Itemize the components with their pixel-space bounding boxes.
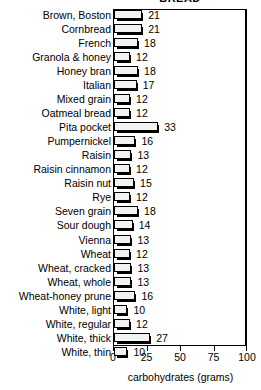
bar-container: 10 [114,305,127,317]
bar-container: 18 [114,206,138,218]
bar-row: Italian17 [0,79,261,93]
bar [114,235,131,244]
category-label: Sour dough [0,219,111,232]
category-label: Pumpernickel [0,135,111,148]
bar-row: White, thick27 [0,332,261,346]
category-label: Wheat, cracked [0,262,111,275]
category-label: Raisin cinnamon [0,163,111,176]
x-axis-tick-label: 75 [208,351,220,363]
bar-container: 12 [114,319,130,331]
category-label: Wheat [0,248,111,261]
bar-row: White, light10 [0,304,261,318]
bread-carbohydrates-chart: BREAD Brown, Boston21Cornbread21French18… [0,0,261,390]
bar-value-label: 18 [144,37,156,50]
category-label: Pita pocket [0,121,111,134]
bar [114,24,142,33]
bar-row: Wheat, cracked13 [0,262,261,276]
bar [114,136,135,145]
bar-row: Wheat-honey prune16 [0,290,261,304]
bar-container: 12 [114,108,130,120]
bar-value-label: 13 [137,276,149,289]
bar [114,192,130,201]
bar-row: Pita pocket33 [0,121,261,135]
category-label: Oatmeal bread [0,107,111,120]
bar-container: 18 [114,38,138,50]
bar-value-label: 16 [141,290,153,303]
category-label: White, regular [0,318,111,331]
bar-container: 12 [114,249,130,261]
bar [114,333,150,342]
bar [114,249,130,258]
bar-value-label: 12 [136,107,148,120]
bar-container: 21 [114,24,142,36]
bar [114,94,130,103]
bar [114,178,134,187]
bar-value-label: 21 [148,23,160,36]
category-label: Honey bran [0,65,111,78]
category-label: Vienna [0,234,111,247]
bar-row: French18 [0,37,261,51]
bar-container: 21 [114,10,142,22]
bar-value-label: 13 [137,262,149,275]
bar [114,319,130,328]
bar-value-label: 13 [137,234,149,247]
x-axis-tick-label: 100 [238,351,256,363]
bar-row: Rye12 [0,191,261,205]
bar-value-label: 12 [136,248,148,261]
bar-row: Granola & honey12 [0,51,261,65]
bar-container: 12 [114,52,130,64]
bar-row: Raisin13 [0,149,261,163]
bar [114,80,137,89]
bar-value-label: 27 [156,332,168,345]
bar-container: 13 [114,235,131,247]
bar [114,150,131,159]
category-label: French [0,37,111,50]
x-axis-tick-label: 25 [141,351,153,363]
bar-container: 16 [114,291,135,303]
bar-row: Brown, Boston21 [0,9,261,23]
category-label: Wheat-honey prune [0,290,111,303]
bar-row: Vienna13 [0,234,261,248]
bar-container: 16 [114,136,135,148]
category-label: Italian [0,79,111,92]
bar-value-label: 12 [136,51,148,64]
bar-value-label: 18 [144,65,156,78]
bar-value-label: 17 [143,79,155,92]
bar-value-label: 12 [136,93,148,106]
bar-row: Oatmeal bread12 [0,107,261,121]
category-label: Granola & honey [0,51,111,64]
bar-container: 17 [114,80,137,92]
bar [114,305,127,314]
bar [114,66,138,75]
bar-row: White, regular12 [0,318,261,332]
category-label: Mixed grain [0,93,111,106]
bar-row: Raisin cinnamon12 [0,163,261,177]
bar-row: Raisin nut15 [0,177,261,191]
bar-row: Sour dough14 [0,219,261,233]
category-label: Raisin nut [0,177,111,190]
category-label: Rye [0,191,111,204]
bar-container: 15 [114,178,134,190]
category-label: Wheat, whole [0,276,111,289]
bar [114,277,131,286]
chart-title: BREAD [113,0,247,4]
bar-container: 13 [114,150,131,162]
bar-value-label: 14 [139,219,151,232]
bar [114,164,130,173]
bar [114,122,158,131]
bar-value-label: 16 [141,135,153,148]
category-label: Seven grain [0,205,111,218]
bar-container: 13 [114,263,131,275]
category-label: Brown, Boston [0,9,111,22]
bar-value-label: 10 [133,304,145,317]
bar-value-label: 13 [137,149,149,162]
bar [114,263,131,272]
x-axis-title: carbohydrates (grams) [100,371,261,383]
bar-value-label: 33 [164,121,176,134]
bar-row: Honey bran18 [0,65,261,79]
bar-container: 12 [114,94,130,106]
category-label: Cornbread [0,23,111,36]
bar-container: 12 [114,192,130,204]
bar-container: 27 [114,333,150,345]
bar-container: 33 [114,122,158,134]
